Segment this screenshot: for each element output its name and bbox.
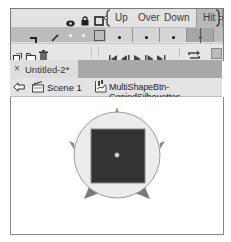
frames-area — [106, 28, 223, 42]
toolbar-divider — [91, 47, 99, 58]
playhead-bracket-right-icon[interactable] — [214, 9, 223, 27]
breadcrumb: Scene 1 MultiShapeBtn-CopiedSilhouettes — [10, 78, 222, 97]
button-symbol-graphic[interactable] — [69, 107, 165, 203]
toolbar-divider-2 — [179, 48, 180, 57]
document-tab-title: Untitled-2* — [25, 64, 69, 75]
frame-label-up[interactable]: Up — [115, 12, 128, 23]
keyframe-dot-icon — [145, 36, 148, 39]
symbol-icon — [94, 80, 107, 95]
pencil-icon — [49, 30, 59, 40]
back-arrow-icon[interactable] — [13, 82, 25, 94]
breadcrumb-scene[interactable]: Scene 1 — [47, 82, 82, 93]
eye-icon[interactable] — [66, 13, 75, 20]
visibility-dot-icon[interactable] — [69, 34, 72, 37]
document-tab[interactable]: × Untitled-2* — [10, 60, 78, 78]
timeline-header: Up Over Down Hit — [11, 9, 223, 28]
stage[interactable] — [10, 97, 224, 235]
document-tab-bar: × Untitled-2* — [10, 60, 222, 78]
outline-icon[interactable] — [94, 12, 104, 22]
keyframe-dot-icon — [172, 36, 175, 39]
frame-down[interactable] — [160, 28, 187, 42]
outline-color-icon[interactable] — [94, 30, 105, 41]
timeline-toolbar — [11, 43, 223, 61]
playhead-bracket-left-icon[interactable] — [104, 9, 112, 27]
frame-over[interactable] — [133, 28, 160, 42]
lock-icon[interactable] — [81, 12, 89, 22]
layer-icon — [30, 31, 38, 39]
frame-label-down[interactable]: Down — [164, 12, 190, 23]
new-layer-icon[interactable] — [13, 48, 22, 57]
trash-icon[interactable] — [39, 47, 48, 58]
lock-dot-icon[interactable] — [82, 34, 85, 37]
scene-icon — [32, 80, 44, 95]
onion-skin-icon[interactable] — [211, 48, 222, 59]
frame-up[interactable] — [106, 28, 133, 42]
layer-row[interactable] — [11, 28, 223, 42]
frame-label-over[interactable]: Over — [138, 12, 160, 23]
timeline-panel: Up Over Down Hit — [10, 8, 224, 61]
new-folder-icon[interactable] — [26, 48, 36, 57]
keyframe-dot-icon — [118, 36, 121, 39]
close-tab-icon[interactable]: × — [14, 63, 20, 74]
